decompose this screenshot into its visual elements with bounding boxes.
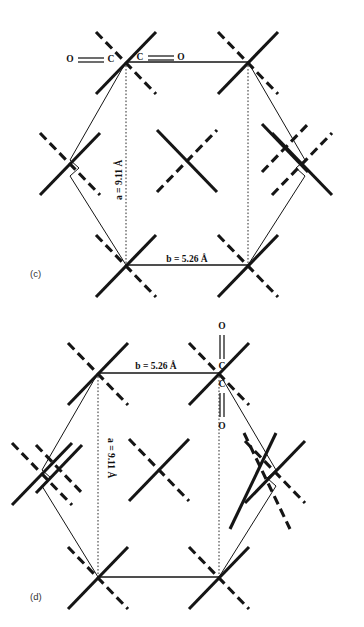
panel-label-d: (d) <box>30 591 42 602</box>
cell-axis-guides-c <box>126 62 248 265</box>
atom-label-o-right: O <box>177 52 184 62</box>
a-axis-label-c: a = 9.11 Å <box>113 160 124 200</box>
molecule-site-mid-left-d <box>12 443 72 505</box>
molecule-site-center <box>157 130 217 192</box>
panel-c-drawing: O C C O a = 9.11 Å b = 5.26 Å (c) <box>0 0 364 313</box>
atom-label-o-left: O <box>66 54 73 64</box>
molecule-site-top-right <box>218 32 278 94</box>
b-axis-edge-c <box>126 62 248 265</box>
atom-label-c-top: C <box>219 361 226 371</box>
a-axis-label-d: a = 9.11 Å <box>106 438 117 478</box>
atom-label-c-left: C <box>108 54 115 64</box>
molecule-site-top-right-d <box>189 343 249 405</box>
panel-c: O C C O a = 9.11 Å b = 5.26 Å (c) <box>0 0 364 313</box>
atom-label-c-right: C <box>137 52 144 62</box>
panel-label-c: (c) <box>30 268 41 279</box>
svg-text:a = 9.11 Å: a = 9.11 Å <box>113 160 124 200</box>
b-axis-label-c: b = 5.26 Å <box>166 253 207 264</box>
molecule-site-mid-left <box>40 133 100 195</box>
molecule-site-mid-right-b <box>262 124 308 172</box>
svg-text:a = 9.11 Å: a = 9.11 Å <box>106 438 117 478</box>
unit-cell-outline-d <box>42 373 276 577</box>
molecule-site-top-left-d <box>68 343 128 405</box>
atom-label-c-bottom: C <box>219 379 226 389</box>
panel-d-drawing: O C C O a = 9.11 Å b = 5.26 Å (d) <box>0 313 364 627</box>
molecule-site-mid-right-b-d <box>230 433 290 529</box>
atom-label-o-top: O <box>218 321 225 331</box>
crystal-structure-figure: O C C O a = 9.11 Å b = 5.26 Å (c) <box>0 0 364 627</box>
molecule-site-top-left <box>96 32 156 94</box>
svg-text:b = 5.26 Å: b = 5.26 Å <box>166 253 207 264</box>
atom-label-o-bottom: O <box>218 421 225 431</box>
panel-d: O C C O a = 9.11 Å b = 5.26 Å (d) <box>0 313 364 627</box>
b-axis-label-d: b = 5.26 Å <box>135 360 176 371</box>
svg-text:b = 5.26 Å: b = 5.26 Å <box>135 360 176 371</box>
molecule-site-center-d <box>129 439 189 501</box>
